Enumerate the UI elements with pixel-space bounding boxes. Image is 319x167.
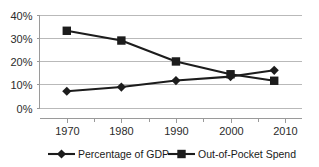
x-axis-tick-label: 1980 xyxy=(109,125,133,137)
y-axis-tick-label: 0% xyxy=(17,103,33,115)
y-axis-tick-label: 20% xyxy=(10,56,32,68)
x-axis-tick-label: 2010 xyxy=(273,125,297,137)
data-point-square-marker xyxy=(270,77,278,85)
legend-marker-square xyxy=(177,150,185,158)
data-point-square-marker xyxy=(63,27,71,35)
data-point-diamond-marker xyxy=(171,76,180,85)
y-axis-tick-label: 30% xyxy=(10,33,32,45)
data-point-diamond-marker xyxy=(62,87,71,96)
y-axis-tick-label: 10% xyxy=(10,79,32,91)
data-point-diamond-marker xyxy=(270,66,279,75)
data-point-square-marker xyxy=(172,57,180,65)
chart-container: 0%10%20%30%40% 19701980199020002010 Perc… xyxy=(0,0,319,167)
y-axis-tick-label: 40% xyxy=(10,10,32,22)
x-axis-tick-label: 1970 xyxy=(55,125,79,137)
series-line xyxy=(67,70,274,91)
x-axis-tick-label: 1990 xyxy=(164,125,188,137)
line-chart: 0%10%20%30%40% 19701980199020002010 Perc… xyxy=(0,0,319,167)
x-axis-tick-label: 2000 xyxy=(219,125,243,137)
x-axis-tick-labels: 19701980199020002010 xyxy=(55,125,297,137)
y-axis-tick-labels: 0%10%20%30%40% xyxy=(10,10,32,115)
legend-marker-diamond xyxy=(57,149,66,158)
legend-item-label: Percentage of GDP xyxy=(78,148,169,160)
data-point-square-marker xyxy=(117,36,125,44)
gridlines-group xyxy=(40,16,302,109)
data-point-diamond-marker xyxy=(117,82,126,91)
chart-legend: Percentage of GDPOut-of-Pocket Spend xyxy=(48,148,296,160)
data-point-square-marker xyxy=(226,70,234,78)
legend-item-label: Out-of-Pocket Spend xyxy=(198,148,296,160)
x-tick-marks-group xyxy=(68,119,286,123)
